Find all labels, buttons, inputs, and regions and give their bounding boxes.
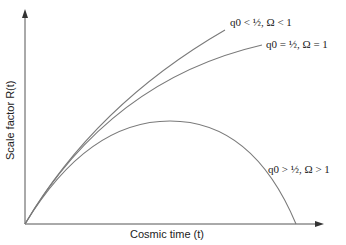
curve-closed-universe [25,121,296,224]
x-axis-arrow-icon [315,221,324,227]
chart-canvas [0,0,346,245]
label-critical-universe: q0 = ½, Ω = 1 [266,38,328,50]
y-axis-label: Scale factor R(t) [4,81,16,160]
label-open-universe: q0 < ½, Ω < 1 [230,16,292,28]
label-closed-universe: q0 > ½, Ω > 1 [268,163,330,175]
curve-open-universe [25,30,225,224]
y-axis-arrow-icon [22,9,28,18]
curve-critical-universe [25,45,262,224]
x-axis-label: Cosmic time (t) [130,228,204,240]
